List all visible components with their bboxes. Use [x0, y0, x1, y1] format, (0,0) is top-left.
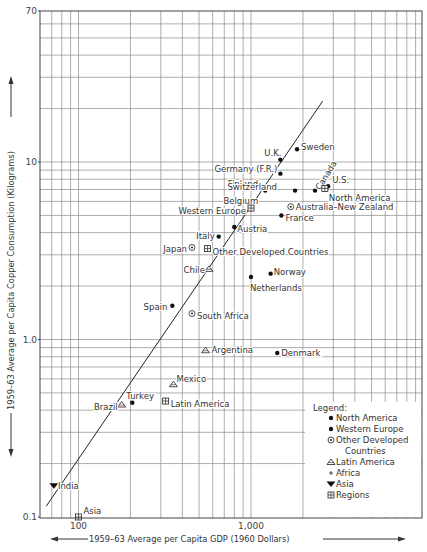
triangle-marker-icon: [202, 347, 210, 353]
data-point: Japan: [162, 244, 195, 254]
data-point: South Africa: [189, 311, 249, 321]
axis-ticks: 0.11.010701001,000: [23, 6, 264, 531]
data-point: France: [279, 213, 313, 223]
x-axis-label: 1959–63 Average per Capita GDP (1960 Dol…: [89, 534, 290, 544]
data-point: Norway: [268, 267, 305, 277]
triangle-marker-icon: [118, 402, 126, 408]
point-label: Brazil: [94, 402, 118, 412]
data-point: Other Developed Countries: [205, 246, 329, 257]
y-tick-label: 70: [26, 6, 38, 16]
point-label: Switzerland: [227, 182, 277, 192]
x-tick-label: 1,000: [238, 521, 264, 531]
data-point: Netherlands: [249, 275, 303, 293]
x-tick-label: 100: [70, 521, 87, 531]
circle-dot-marker-icon: [189, 244, 195, 250]
triangle-marker-icon: [205, 266, 213, 272]
point-label: Netherlands: [250, 283, 302, 293]
data-point: Italy: [196, 231, 221, 241]
dot-marker-icon: [279, 213, 283, 217]
point-label: Sweden: [301, 142, 335, 152]
point-label: Japan: [162, 244, 187, 254]
point-label: Turkey: [125, 391, 154, 401]
point-label: Germany (F.R.): [214, 164, 277, 174]
legend-item: North America: [329, 413, 398, 423]
data-point: North America: [322, 185, 391, 203]
circle-dot-marker-icon: [328, 437, 334, 443]
legend-label: Other Developed: [336, 435, 408, 445]
legend-label: Africa: [336, 468, 360, 478]
data-point: Austria: [232, 224, 267, 234]
circle-dot-marker-icon: [288, 204, 294, 210]
circle-dot-marker-icon: [189, 311, 195, 317]
dot-marker-icon: [295, 147, 299, 151]
boxed-plus-marker-icon: [322, 185, 328, 191]
dot-marker-icon: [249, 275, 253, 279]
y-axis-title: 1959–63 Average per Capita Copper Consum…: [6, 76, 16, 457]
point-label: Austria: [237, 224, 267, 234]
dot-marker-icon: [329, 427, 333, 431]
y-axis-label: 1959–63 Average per Capita Copper Consum…: [6, 151, 16, 410]
point-label: Latin America: [171, 399, 230, 409]
y-tick-label: 0.1: [23, 512, 37, 522]
dot-marker-icon: [278, 171, 282, 175]
point-label: France: [285, 213, 313, 223]
data-point: Switzerland: [227, 182, 297, 193]
point-label: Other Developed Countries: [213, 247, 329, 257]
dot-marker-icon: [278, 158, 282, 162]
data-point: Chile: [184, 265, 213, 275]
point-label: Argentina: [212, 345, 253, 355]
legend-title: Legend:: [313, 403, 347, 413]
data-point: Turkey: [125, 391, 154, 405]
dot-marker-icon: [293, 188, 297, 192]
right-arrow-icon: [398, 537, 406, 542]
data-point: Australia–New Zealand: [288, 202, 394, 212]
boxed-plus-marker-icon: [163, 398, 169, 404]
legend-label: Countries: [345, 446, 386, 456]
point-label: Chile: [184, 265, 205, 275]
boxed-plus-marker-icon: [328, 492, 334, 498]
data-point: Mexico: [169, 374, 206, 387]
legend-label: Latin America: [336, 457, 395, 467]
point-label: Western Europe: [179, 206, 246, 216]
point-label: U.K.: [264, 148, 281, 158]
x-axis-title: 1959–63 Average per Capita GDP (1960 Dol…: [50, 534, 406, 544]
point-label: Belgium: [223, 196, 258, 206]
data-point: Sweden: [295, 142, 335, 152]
data-point: Western Europe: [179, 205, 254, 216]
point-label: India: [58, 481, 79, 491]
copper-gdp-chart: SwedenU.K.Germany (F.R.)FinlandBelgiumSw…: [0, 0, 427, 552]
legend-label: Regions: [336, 490, 370, 500]
point-label: Spain: [144, 302, 168, 312]
dot-marker-icon: [232, 225, 236, 229]
data-point: Spain: [144, 302, 175, 312]
dot-marker-icon: [217, 234, 221, 238]
data-point: U.K.: [264, 148, 282, 162]
data-point: Latin America: [163, 398, 230, 409]
dot-marker-icon: [329, 416, 333, 420]
legend-label: North America: [336, 413, 398, 423]
point-label: Italy: [196, 231, 214, 241]
left-arrow-icon: [50, 537, 58, 542]
y-tick-label: 10: [26, 157, 38, 167]
up-arrow-icon: [9, 76, 14, 84]
dot-marker-icon: [130, 401, 134, 405]
dot-marker-icon: [275, 351, 279, 355]
data-point: Denmark: [275, 348, 320, 358]
legend-item: Latin America: [327, 457, 395, 467]
data-point: India: [49, 481, 78, 491]
dot-marker-icon: [170, 304, 174, 308]
legend-label: Western Europe: [336, 424, 403, 434]
boxed-plus-marker-icon: [76, 514, 82, 520]
dot-marker-icon: [268, 271, 272, 275]
y-tick-label: 1.0: [23, 335, 38, 345]
legend-label: Asia: [336, 479, 354, 489]
point-label: Asia: [84, 506, 102, 516]
point-label: U.S.: [332, 175, 349, 185]
boxed-plus-marker-icon: [205, 246, 211, 252]
point-label: Denmark: [281, 348, 320, 358]
point-label: South Africa: [197, 311, 249, 321]
point-label: Norway: [274, 267, 306, 277]
boxed-plus-marker-icon: [248, 205, 254, 211]
legend-item: Western Europe: [329, 424, 404, 434]
point-label: Mexico: [176, 374, 206, 384]
